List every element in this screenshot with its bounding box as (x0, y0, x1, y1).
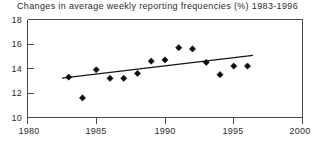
data-point (176, 45, 182, 51)
data-point (121, 75, 127, 81)
y-tick-label-14: 14 (11, 64, 22, 74)
y-tick-label-18: 18 (11, 15, 22, 25)
data-point (66, 74, 72, 80)
data-point (162, 57, 168, 63)
chart-figure: Changes in average weekly reporting freq… (0, 0, 329, 144)
x-tick-label-1995: 1995 (222, 126, 243, 136)
y-axis-labels: 18 16 14 12 10 (11, 15, 22, 123)
x-tick-label-1985: 1985 (85, 126, 106, 136)
y-tick-label-12: 12 (11, 88, 22, 98)
x-axis-labels: 1980 1985 1990 1995 2000 (18, 126, 310, 136)
y-tick-label-10: 10 (11, 113, 22, 123)
x-tick-marks (28, 118, 303, 124)
x-tick-label-2000: 2000 (289, 126, 310, 136)
data-point (148, 58, 154, 64)
data-point (244, 63, 250, 69)
data-point (217, 72, 223, 78)
data-point (79, 95, 85, 101)
x-tick-label-1990: 1990 (154, 126, 175, 136)
y-tick-marks (28, 20, 34, 118)
scatter-plot: 18 16 14 12 10 1980 1985 1990 1995 2000 (0, 0, 329, 144)
plot-frame (28, 20, 303, 118)
trend-line (62, 55, 253, 78)
data-point (93, 67, 99, 73)
y-tick-label-16: 16 (11, 39, 22, 49)
data-point (231, 63, 237, 69)
data-point (134, 70, 140, 76)
x-tick-label-1980: 1980 (18, 126, 39, 136)
data-point (107, 75, 113, 81)
data-point (189, 46, 195, 52)
data-point-group (66, 45, 251, 101)
